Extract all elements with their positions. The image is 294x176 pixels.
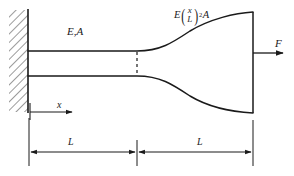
taper-exponent: 2 xyxy=(199,12,202,19)
uniform-section-base: E xyxy=(67,25,74,37)
bar-outline xyxy=(28,12,253,113)
taper-fraction: xL xyxy=(187,6,192,25)
dimension-label-right: L xyxy=(197,137,203,147)
dimension-label-left: L xyxy=(68,137,74,147)
x-coordinate-label: x xyxy=(57,100,61,110)
wall-hatching xyxy=(9,10,28,112)
fixed-wall-support xyxy=(9,9,28,113)
force-label: F xyxy=(275,38,282,49)
dimension-extension-lines xyxy=(29,118,253,166)
x-axis-indicator xyxy=(30,103,72,120)
bar-top-edge xyxy=(28,12,253,51)
uniform-section-label: E,A xyxy=(67,26,83,39)
taper-left-paren: ( xyxy=(182,8,186,23)
tapered-section-label: E(xL)2A xyxy=(174,6,209,25)
bar-bottom-edge xyxy=(28,76,253,113)
tapered-bar-figure: E,A E(xL)2A F x L L xyxy=(0,0,294,176)
taper-denominator: L xyxy=(187,15,192,24)
uniform-section-area: A xyxy=(76,25,83,37)
taper-area: A xyxy=(203,10,209,21)
figure-canvas xyxy=(0,0,294,176)
taper-right-paren: ) xyxy=(194,8,198,23)
taper-base: E xyxy=(174,10,180,21)
